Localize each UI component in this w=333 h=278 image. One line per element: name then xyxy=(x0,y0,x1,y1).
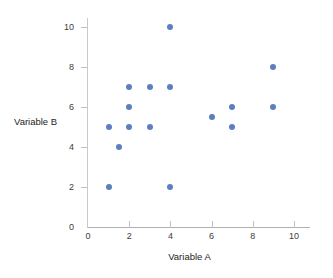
y-axis-tick-label: 8 xyxy=(46,62,74,72)
data-point xyxy=(270,64,276,70)
data-point xyxy=(126,84,132,90)
y-axis-tick xyxy=(81,27,88,28)
y-axis-origin-label: 0 xyxy=(46,222,74,232)
y-axis-tick xyxy=(81,187,88,188)
x-axis-tick-label-text: 8 xyxy=(241,231,265,242)
y-axis-tick-label: 10 xyxy=(46,22,74,32)
data-point xyxy=(270,104,276,110)
x-axis-tick-label-text: 2 xyxy=(117,231,141,242)
x-axis-tick-label: 8 xyxy=(241,231,265,242)
data-point xyxy=(116,144,122,150)
scatter-plot-figure: 2468100 0246810 Variable B Variable A xyxy=(0,0,333,278)
data-point xyxy=(147,124,153,130)
plot-area xyxy=(88,18,304,227)
data-point xyxy=(167,84,173,90)
data-point xyxy=(126,124,132,130)
x-axis-tick-label-text: 6 xyxy=(200,231,224,242)
y-axis-tick-label-text: 4 xyxy=(46,142,74,152)
x-axis-title: Variable A xyxy=(0,251,333,262)
y-axis-title: Variable B xyxy=(14,116,57,127)
x-axis-tick-label-text: 10 xyxy=(282,231,306,242)
data-point xyxy=(147,84,153,90)
y-axis-tick xyxy=(81,147,88,148)
y-axis-tick xyxy=(81,67,88,68)
data-point xyxy=(126,104,132,110)
x-axis-tick-label: 0 xyxy=(76,231,100,242)
y-axis-tick-label-text: 10 xyxy=(46,22,74,32)
y-axis-tick-label: 4 xyxy=(46,142,74,152)
data-point xyxy=(209,114,215,120)
y-axis-tick-label: 6 xyxy=(46,102,74,112)
data-point xyxy=(167,184,173,190)
y-axis-tick-label-text: 2 xyxy=(46,182,74,192)
y-axis-tick-label: 2 xyxy=(46,182,74,192)
data-point xyxy=(106,184,112,190)
y-axis-tick-label-text: 6 xyxy=(46,102,74,112)
y-axis-origin-label-text: 0 xyxy=(46,222,74,232)
x-axis-tick-label: 2 xyxy=(117,231,141,242)
x-axis-tick-label: 6 xyxy=(200,231,224,242)
x-axis-tick-label: 10 xyxy=(282,231,306,242)
x-axis-title-text: Variable A xyxy=(122,251,211,262)
x-axis-tick-label-text: 0 xyxy=(76,231,100,242)
data-point xyxy=(229,104,235,110)
data-point xyxy=(229,124,235,130)
data-point xyxy=(106,124,112,130)
x-axis-line xyxy=(88,227,310,228)
y-axis-tick-label-text: 8 xyxy=(46,62,74,72)
y-axis-tick xyxy=(81,107,88,108)
x-axis-tick-label-text: 4 xyxy=(158,231,182,242)
data-point xyxy=(167,24,173,30)
x-axis-tick-label: 4 xyxy=(158,231,182,242)
